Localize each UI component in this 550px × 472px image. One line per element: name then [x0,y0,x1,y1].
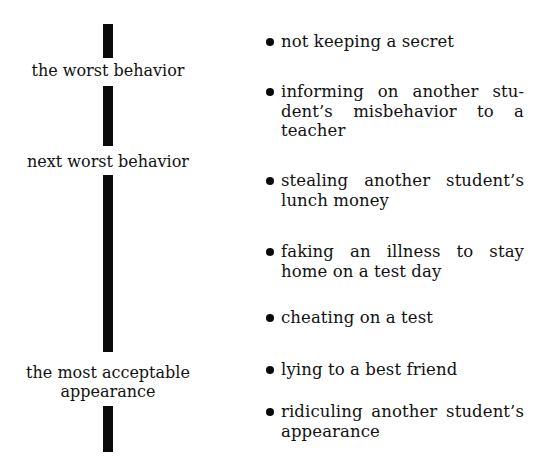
bullet-icon [266,177,274,185]
bullet-icon [266,38,274,46]
scale-bar-segment-3 [103,175,113,352]
label-next-worst-behavior: next worst behavior [0,152,216,171]
bullet-icon [266,88,274,96]
ranking-scale: the worst behavior next worst behavior t… [0,0,230,472]
scale-bar-segment-2 [103,86,113,146]
scale-bar-segment-4 [103,406,113,452]
list-item: stealing another student’s lunch money [264,171,524,210]
list-item: informing on another stu­dent’s misbehav… [264,82,524,141]
list-item: lying to a best friend [264,360,524,380]
behavior-text: faking an illness to stay home on a test… [281,242,524,281]
behavior-text: stealing another student’s lunch money [281,171,524,210]
list-item: faking an illness to stay home on a test… [264,242,524,281]
behavior-text: ridiculing another student’s appearance [281,402,524,441]
bullet-icon [266,366,274,374]
behavior-text: cheating on a test [281,308,524,328]
scale-bar-segment-1 [103,24,113,58]
bullet-icon [266,314,274,322]
bullet-icon [266,248,274,256]
behavior-text: lying to a best friend [281,360,524,380]
behavior-text: informing on another stu­dent’s misbehav… [281,82,524,141]
label-most-acceptable-line2: appearance [0,382,216,401]
label-worst-behavior: the worst behavior [0,61,216,80]
list-item: cheating on a test [264,308,524,328]
behavior-text: not keeping a secret [281,32,524,52]
list-item: not keeping a secret [264,32,524,52]
label-most-acceptable-line1: the most acceptable [0,363,216,382]
bullet-icon [266,408,274,416]
list-item: ridiculing another student’s appearance [264,402,524,441]
